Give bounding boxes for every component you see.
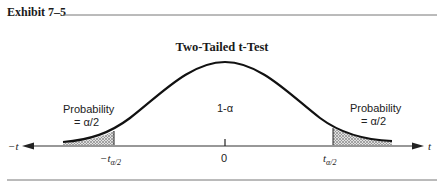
right-critical-label: tα/2 (323, 152, 336, 167)
left-critical-label: −tα/2 (100, 152, 121, 167)
right-tail-label-line2: = α/2 (361, 115, 386, 127)
center-probability-label: 1-α (217, 102, 234, 114)
left-tail-label-line2: = α/2 (74, 116, 99, 128)
axis-right-label: t (428, 140, 432, 152)
diagram-title: Two-Tailed t-Test (0, 40, 444, 55)
t-distribution-diagram: −t t 1-α 0 Probability = α/2 −tα/2 Proba… (0, 0, 444, 188)
right-arrow-icon (412, 143, 424, 150)
right-tail-label-line1: Probability (350, 102, 402, 114)
axis-left-label: −t (8, 140, 19, 152)
left-arrow-icon (22, 143, 34, 150)
center-tick-label: 0 (221, 152, 227, 164)
left-tail-label-line1: Probability (63, 103, 115, 115)
